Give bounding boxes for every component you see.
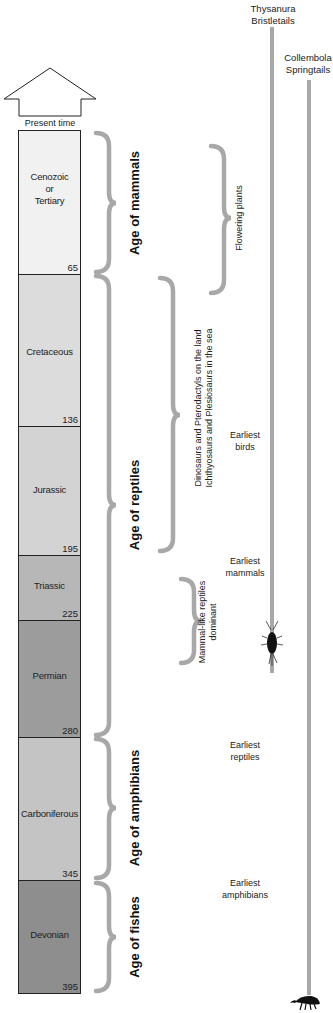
period-end-mya: 345: [62, 868, 78, 879]
period-name: Cenozoic: [19, 171, 80, 183]
springtail-insect-icon: [289, 993, 323, 1013]
period-name: Triassic: [19, 580, 80, 592]
period-cenozoic: Cenozoic or Tertiary 65: [18, 130, 81, 275]
note-dinosaurs: Dinosaurs and Pterodactyls on the land I…: [193, 313, 219, 503]
age-label-amphibians: Age of amphibians: [127, 743, 143, 873]
present-time-label: Present time: [14, 117, 86, 129]
period-name: Tertiary: [19, 195, 80, 207]
period-name: Permian: [19, 670, 80, 682]
period-permian: Permian 280: [18, 621, 81, 738]
bracket-amphibians: [96, 739, 116, 878]
period-end-mya: 136: [62, 414, 78, 425]
lineage-thysanura-label: Thysanura Bristletails: [240, 3, 306, 27]
bristletail-insect-icon: [257, 620, 287, 670]
age-label-reptiles: Age of reptiles: [127, 450, 143, 560]
lineage-collembola-label: Collembola Springtails: [283, 52, 333, 76]
note-mammal-like-line1: Mammal-like reptiles: [197, 572, 208, 672]
period-end-mya: 395: [62, 981, 78, 992]
period-end-mya: 195: [62, 543, 78, 554]
bracket-reptiles: [96, 276, 116, 735]
period-cretaceous: Cretaceous 136: [18, 275, 81, 427]
event-earliest-amphibians: Earliest amphibians: [210, 877, 280, 901]
period-carboniferous: Carboniferous 345: [18, 738, 81, 881]
bracket-flowering-plants: [211, 146, 231, 293]
age-label-mammals: Age of mammals: [127, 148, 143, 258]
note-dinosaurs-line2: Ichthyosaurs and Plesiosaurs in the sea: [204, 313, 215, 503]
lineage-bristletails-line: [270, 27, 274, 673]
age-label-fishes: Age of fishes: [127, 887, 143, 987]
period-name: Devonian: [19, 929, 80, 941]
lineage-springtails-line: [307, 80, 311, 995]
period-name: Jurassic: [19, 484, 80, 496]
bracket-fishes: [96, 883, 116, 991]
period-triassic: Triassic 225: [18, 556, 81, 621]
note-dinosaurs-line1: Dinosaurs and Pterodactyls on the land: [193, 313, 204, 503]
period-name: or: [19, 183, 80, 195]
period-end-mya: 225: [62, 608, 78, 619]
note-mammal-like-line2: dominant: [208, 572, 219, 672]
event-earliest-birds: Earliest birds: [215, 429, 275, 453]
period-name: Carboniferous: [19, 808, 80, 820]
bracket-mammals: [96, 133, 116, 272]
event-earliest-mammals: Earliest mammals: [215, 555, 275, 579]
note-mammal-like-reptiles: Mammal-like reptiles dominant: [197, 572, 223, 672]
period-name: Cretaceous: [19, 346, 80, 358]
bracket-dinosaurs: [160, 278, 180, 551]
note-flowering-plants: Flowering plants: [234, 178, 246, 258]
event-earliest-reptiles: Earliest reptiles: [215, 739, 275, 763]
period-end-mya: 65: [67, 262, 78, 273]
period-jurassic: Jurassic 195: [18, 427, 81, 556]
period-devonian: Devonian 395: [18, 881, 81, 994]
period-end-mya: 280: [62, 725, 78, 736]
